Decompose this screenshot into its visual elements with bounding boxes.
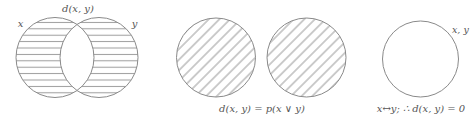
set-label-y: y xyxy=(131,18,138,29)
venn-diagrams-figure: d(x, y) x y d(x, y) = p(x ∨ y) x, y x↔y;… xyxy=(0,0,476,120)
diagram-caption: x↔y; ∴ d(x, y) = 0 xyxy=(377,103,466,114)
diagram-symmetric-difference: d(x, y) x y xyxy=(16,3,138,98)
circle-x xyxy=(177,18,256,97)
circle-y xyxy=(267,18,346,97)
set-label-x: x xyxy=(18,18,24,29)
diagram-disjoint-sets: d(x, y) = p(x ∨ y) xyxy=(177,18,347,114)
diagram-title: d(x, y) xyxy=(62,3,94,14)
set-label-x-y: x, y xyxy=(452,24,469,35)
diagram-caption: d(x, y) = p(x ∨ y) xyxy=(219,103,305,114)
diagram-equal-sets: x, y x↔y; ∴ d(x, y) = 0 xyxy=(377,21,470,114)
circle-x-y xyxy=(383,21,459,97)
